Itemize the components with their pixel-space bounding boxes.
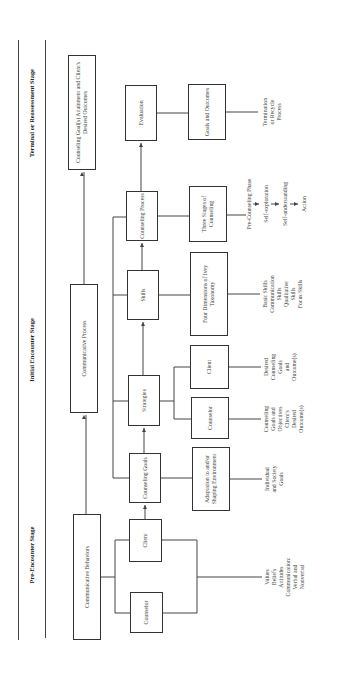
individual-goals-note: Individual and Society Goals [264,465,285,492]
counseling-model-diagram: Pre-Encounter Stage Initial Encounter St… [0,0,338,685]
strategies-counselor-box: Counselor [191,397,229,439]
skills-list-note: Basic Skills Communication Skills Qualit… [262,275,304,312]
adaptation-box: Adaptation to and/or Shaping Environment [192,447,230,511]
values-note: Values Beliefs Attitudes Communication: … [264,558,306,597]
counselor-goals-note: Counseling Goals and Objectives Client's… [263,405,305,432]
skills-box: Skills [127,270,159,320]
client-goals-note: Desired Counseling Goals and Outcome(s) [263,353,298,380]
strategies-box: Strategies [128,375,160,426]
four-dimensions-box: Four Dimensions of Ivey Taxonomy [190,252,228,336]
phase-self-understanding: Self-understanding [282,182,289,226]
phase-pre-counseling: Pre-Counseling Phase [246,178,253,229]
counseling-goals-box: Counseling Goals [129,453,161,503]
evaluation-box: Evaluation [125,85,157,141]
phase-self-exploration: Self-exploration [263,185,270,223]
three-stages-box: Three Stages of Counseling [189,186,227,242]
goals-outcomes-box: Goals and Outcomes [188,84,226,140]
goal-attainment-box: Counseling Goal(s) Attainment and Client… [68,55,96,170]
communicative-behaviors-box: Communicative Behaviors [73,514,101,640]
client-box: Client [129,519,162,562]
counselor-box: Counselor [130,592,163,633]
phase-action: Action [301,196,308,212]
strategies-client-box: Client [190,345,229,389]
counseling-process-box: Counseling Process [126,191,158,241]
communicative-process-box: Communicative Process [70,284,98,413]
termination-note: Termination or Recycle Process [262,98,283,126]
